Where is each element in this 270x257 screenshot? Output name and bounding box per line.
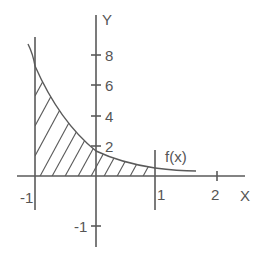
x-axis-label: X [240, 187, 250, 204]
x-tick-label-neg1: -1 [20, 189, 33, 206]
y-axis-label: Y [102, 11, 112, 28]
x-tick-label-1: 1 [157, 186, 165, 203]
y-tick-label-8: 8 [105, 47, 113, 64]
curve-label: f(x) [165, 148, 187, 165]
y-tick-label-neg1: -1 [74, 218, 87, 235]
y-tick-label-6: 6 [105, 77, 113, 94]
y-tick-label-4: 4 [105, 108, 113, 125]
chart-figure: Y X f(x) 8 6 4 2 -1 -1 1 2 [0, 0, 270, 257]
y-tick-label-2: 2 [105, 138, 113, 155]
x-tick-label-2: 2 [211, 186, 219, 203]
